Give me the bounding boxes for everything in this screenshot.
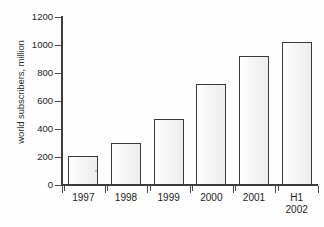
y-tick-mark: [55, 17, 63, 18]
y-tick-label: 1000: [1, 40, 53, 50]
x-tick-mark: [318, 186, 319, 193]
bar-fill: [69, 157, 97, 184]
x-tick-mark: [107, 186, 108, 191]
y-tick-mark: [55, 129, 63, 130]
x-tick-label: 2001: [233, 192, 276, 204]
bar-fill: [112, 144, 140, 184]
bar-fill: [240, 57, 268, 185]
y-tick-label-wrap: 200: [0, 152, 53, 162]
y-tick-label: 1200: [1, 12, 53, 22]
bar: [282, 42, 312, 185]
y-tick-mark: [55, 45, 63, 46]
y-tick-label: 0: [1, 180, 53, 190]
bar: [239, 56, 269, 186]
x-tick-label: 1997: [62, 192, 105, 204]
bar-fill: [197, 85, 225, 184]
x-tick-mark: [64, 186, 65, 191]
y-tick-label: 600: [1, 96, 53, 106]
y-tick-label-wrap: 600: [0, 96, 53, 106]
bar: [196, 84, 226, 185]
bar-fill: [283, 43, 311, 184]
y-tick-label-wrap: 0: [0, 180, 53, 190]
x-tick-label: 1999: [147, 192, 190, 204]
x-tick-label: 1998: [105, 192, 148, 204]
y-tick-label: 200: [1, 152, 53, 162]
x-tick-mark: [278, 186, 279, 191]
x-tick-mark: [192, 186, 193, 191]
y-tick-mark: [55, 73, 63, 74]
y-tick-mark: [55, 157, 63, 158]
y-tick-label-wrap: 400: [0, 124, 53, 134]
y-tick-label-wrap: 800: [0, 68, 53, 78]
y-tick-label-wrap: 1000: [0, 40, 53, 50]
bar-fill: [155, 120, 183, 185]
y-tick-label: 400: [1, 124, 53, 134]
x-tick-label: 2000: [190, 192, 233, 204]
x-tick-mark: [235, 186, 236, 191]
bar: [68, 156, 98, 185]
bar-chart: world subscribers, million 1200100080060…: [0, 0, 324, 227]
x-tick-label: H1 2002: [275, 192, 318, 216]
y-tick-mark: [55, 101, 63, 102]
bar: [154, 119, 184, 186]
y-tick-label: 800: [1, 68, 53, 78]
y-tick-label-wrap: 1200: [0, 12, 53, 22]
x-tick-mark: [150, 186, 151, 191]
scan-speck: [95, 170, 97, 172]
bar: [111, 143, 141, 185]
